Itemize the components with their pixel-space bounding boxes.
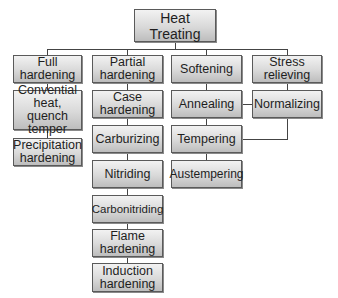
node-nitriding: Nitriding (92, 160, 163, 188)
node-partial-hardening: Partial hardening (92, 55, 163, 83)
node-case-hardening: Case hardening (92, 90, 163, 118)
connector-annealing-normalizing (242, 104, 252, 105)
connector-tempering-normalizing (242, 139, 288, 140)
node-heat-treating: Heat Treating (134, 9, 216, 42)
node-flame-hardening: Flame hardening (92, 229, 163, 257)
node-normalizing: Normalizing (252, 90, 322, 118)
node-induction-hardening: Induction hardening (92, 263, 163, 292)
node-full-hardening: Full hardening (13, 55, 82, 83)
node-annealing: Annealing (171, 90, 242, 118)
connector-root-down (175, 42, 176, 49)
node-precipitation-hardening: Precipitation hardening (13, 138, 82, 166)
connector-normalizing-down (287, 118, 288, 140)
connector-top-bus (47, 49, 288, 50)
node-stress-relieving: Stress relieving (252, 55, 322, 83)
node-austempering: Austempering (171, 160, 242, 188)
connector-col4-chain (287, 83, 288, 90)
node-carbonitriding: Carbonitriding (92, 195, 163, 223)
node-carburizing: Carburizing (92, 125, 163, 153)
node-conventional-heat-quench-temper: Convential heat, quench temper (13, 90, 82, 130)
node-tempering: Tempering (171, 125, 242, 153)
node-softening: Softening (171, 55, 242, 83)
